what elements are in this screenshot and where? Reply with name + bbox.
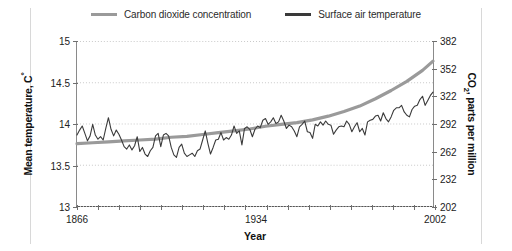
x-axis-tick	[98, 205, 99, 210]
series-line-co2	[77, 61, 433, 144]
x-axis-tick	[393, 205, 394, 210]
x-axis-tick	[203, 205, 204, 210]
y-axis-left-tick-label: 13	[59, 202, 77, 213]
x-axis-tick-label: 1934	[245, 214, 267, 225]
x-axis-tick	[182, 205, 183, 210]
y-axis-left-tick-label: 14	[59, 119, 77, 130]
series-layer	[77, 41, 433, 206]
legend-label-temperature: Surface air temperature	[318, 9, 421, 20]
x-axis-tick	[435, 205, 436, 210]
series-line-temp	[77, 92, 433, 157]
y-axis-right-tick-label: 292	[433, 119, 457, 130]
x-axis-tick	[372, 205, 373, 210]
x-axis-tick	[330, 205, 331, 210]
x-axis-tick	[224, 205, 225, 210]
y-axis-left-tick-label: 14.5	[51, 77, 77, 88]
x-axis-tick	[414, 205, 415, 210]
x-axis-tick	[140, 205, 141, 210]
y-axis-right-tick-label: 352	[433, 63, 457, 74]
legend-item-co2: Carbon dioxide concentration	[91, 9, 251, 20]
x-axis-tick	[245, 205, 246, 210]
figure-right-rule	[481, 8, 482, 244]
chart-legend: Carbon dioxide concentration Surface air…	[0, 9, 512, 20]
y-axis-right-tick-label: 322	[433, 91, 457, 102]
y-axis-right-tick-label: 382	[433, 36, 457, 47]
x-axis-tick-label: 2002	[424, 214, 446, 225]
y-axis-right-title: CO2, parts per million	[462, 72, 477, 175]
y-axis-left-title: Mean temperature, C°	[20, 72, 34, 175]
x-axis-tick	[267, 205, 268, 210]
x-axis-tick	[77, 205, 78, 210]
y-axis-right-tick-label: 202	[433, 202, 457, 213]
y-axis-right-tick-label: 232	[433, 174, 457, 185]
x-axis-tick	[161, 205, 162, 210]
x-axis-tick	[119, 205, 120, 210]
y-axis-left-tick-label: 13.5	[51, 160, 77, 171]
legend-label-co2: Carbon dioxide concentration	[124, 9, 251, 20]
y-axis-left-tick-label: 15	[59, 36, 77, 47]
y-axis-right-tick-label: 262	[433, 146, 457, 157]
x-axis-tick-label: 1866	[66, 214, 88, 225]
legend-item-temperature: Surface air temperature	[285, 9, 421, 20]
legend-swatch-temperature-icon	[285, 13, 311, 16]
x-axis-title: Year	[244, 230, 266, 242]
x-axis-tick	[288, 205, 289, 210]
legend-swatch-co2-icon	[91, 13, 117, 16]
x-axis-tick	[309, 205, 310, 210]
plot-area: 1313.51414.51520223226229232235238218661…	[76, 41, 434, 207]
x-axis-tick	[351, 205, 352, 210]
chart-figure: Carbon dioxide concentration Surface air…	[0, 0, 512, 251]
